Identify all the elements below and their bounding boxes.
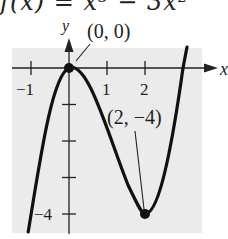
annotation-max-label: (0, 0) (87, 20, 130, 43)
y-axis-arrow-icon (65, 38, 74, 52)
relative-max-point (64, 63, 74, 73)
y-axis-label: y (60, 17, 70, 35)
x-axis-label: x (219, 59, 228, 79)
x-tick-label: −1 (16, 80, 34, 99)
y-tick-label: −4 (34, 205, 53, 224)
x-tick-label: 1 (102, 80, 111, 99)
annotation-min-label: (2, −4) (107, 106, 162, 129)
x-tick-label: 2 (140, 80, 149, 99)
chart-svg: x y −1 1 2 −4 (0, 0) (2, −4) (0, 0, 228, 239)
x-axis-arrow-icon (204, 64, 218, 73)
relative-min-point (140, 209, 150, 219)
